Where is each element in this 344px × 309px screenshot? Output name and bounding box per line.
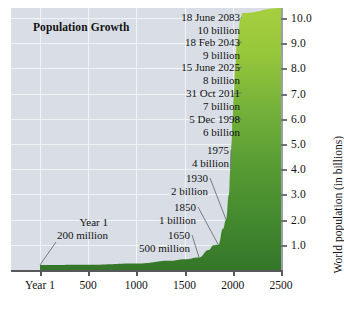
annotation-label: 15 June 20258 billion [181,61,240,86]
x-axis-tick-label: 2000 [221,279,244,291]
annotation-label: 31 Oct 20117 billion [186,87,240,112]
y-axis-tick-label: 10.0 [291,12,312,24]
y-axis-tick-label: 3.0 [291,188,306,200]
annotation-date: 5 Dec 1998 [189,113,240,125]
annotation-population: 9 billion [185,49,240,62]
y-axis-tick-label: 8.0 [291,62,306,74]
annotation-label: 19754 billion [192,144,229,169]
y-axis-tick [281,144,287,146]
x-axis-line [11,270,283,272]
y-axis-tick-label: 7.0 [291,88,306,100]
annotation-label: 18 June 208310 billion [181,11,240,36]
y-axis-tick-label: 1.0 [291,239,306,251]
y-axis-tick [281,43,287,45]
x-axis-tick-label: 1000 [125,279,148,291]
y-axis-tick-label: 5.0 [291,138,306,150]
annotation-date: 1650 [168,229,190,241]
annotation-population: 1 billion [159,214,196,227]
x-axis-tick [40,270,42,276]
y-axis-title: World population (in billions) [332,136,344,273]
annotation-population: 10 billion [181,24,240,37]
annotation-label: 5 Dec 19986 billion [189,113,240,138]
annotation-date: 15 June 2025 [181,61,240,73]
y-axis-tick [281,68,287,70]
annotation-date: 1850 [174,201,196,213]
annotation-population: 500 million [139,242,190,255]
x-axis-tick [233,270,235,276]
x-axis-tick [136,270,138,276]
annotation-label: Year 1200 million [57,216,108,241]
x-axis-tick [185,270,187,276]
annotation-population: 6 billion [189,126,240,139]
annotation-date: Year 1 [79,216,108,228]
annotation-label: 19302 billion [171,172,208,197]
y-axis-tick-label: 9.0 [291,37,306,49]
annotation-population: 200 million [57,229,108,242]
annotation-date: 31 Oct 2011 [186,87,240,99]
annotation-label: 18501 billion [159,201,196,226]
x-axis-tick-label: Year 1 [25,279,55,291]
x-axis-tick-label: 500 [80,279,97,291]
y-axis-tick [281,220,287,222]
y-axis-tick-label: 6.0 [291,113,306,125]
annotation-date: 1930 [186,172,208,184]
x-axis-tick-label: 1500 [173,279,196,291]
annotation-population: 4 billion [192,157,229,170]
annotation-label: 1650500 million [139,229,190,254]
annotation-population: 7 billion [186,100,240,113]
y-axis-tick [281,119,287,121]
annotation-date: 1975 [207,144,229,156]
chart-title: Population Growth [33,21,129,33]
y-axis-tick [281,245,287,247]
annotation-date: 18 Feb 2043 [185,36,240,48]
y-axis-tick-label: 4.0 [291,163,306,175]
y-axis-tick [281,94,287,96]
annotation-label: 18 Feb 20439 billion [185,36,240,61]
x-axis-tick [88,270,90,276]
annotation-population: 2 billion [171,185,208,198]
y-axis-line [281,8,283,270]
annotation-date: 18 June 2083 [181,11,240,23]
y-axis-tick [281,194,287,196]
x-axis-tick [281,270,283,276]
y-axis-tick-label: 2.0 [291,214,306,226]
y-axis-tick [281,169,287,171]
annotation-population: 8 billion [181,74,240,87]
y-axis-tick [281,18,287,20]
x-axis-tick-label: 2500 [270,279,293,291]
